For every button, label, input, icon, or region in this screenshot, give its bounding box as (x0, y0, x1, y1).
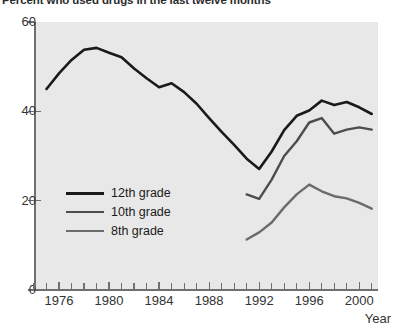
legend-label-2: 8th grade (111, 224, 164, 238)
legend-item-10th-grade[interactable]: 10th grade (66, 205, 186, 219)
data-series-layer (0, 0, 397, 330)
drug-use-line-chart: Percent who used drugs in the last twelv… (0, 0, 397, 330)
legend-item-8th-grade[interactable]: 8th grade (66, 224, 186, 238)
legend-label-0: 12th grade (111, 186, 171, 200)
series-line-8th-grade (247, 185, 372, 240)
x-axis-title: Year (365, 312, 391, 326)
legend-item-12th-grade[interactable]: 12th grade (66, 186, 186, 200)
series-line-12th-grade (47, 48, 372, 169)
legend-swatch-2 (66, 230, 104, 232)
legend-swatch-1 (66, 211, 104, 213)
legend-label-1: 10th grade (111, 205, 171, 219)
legend-swatch-0 (66, 192, 104, 195)
